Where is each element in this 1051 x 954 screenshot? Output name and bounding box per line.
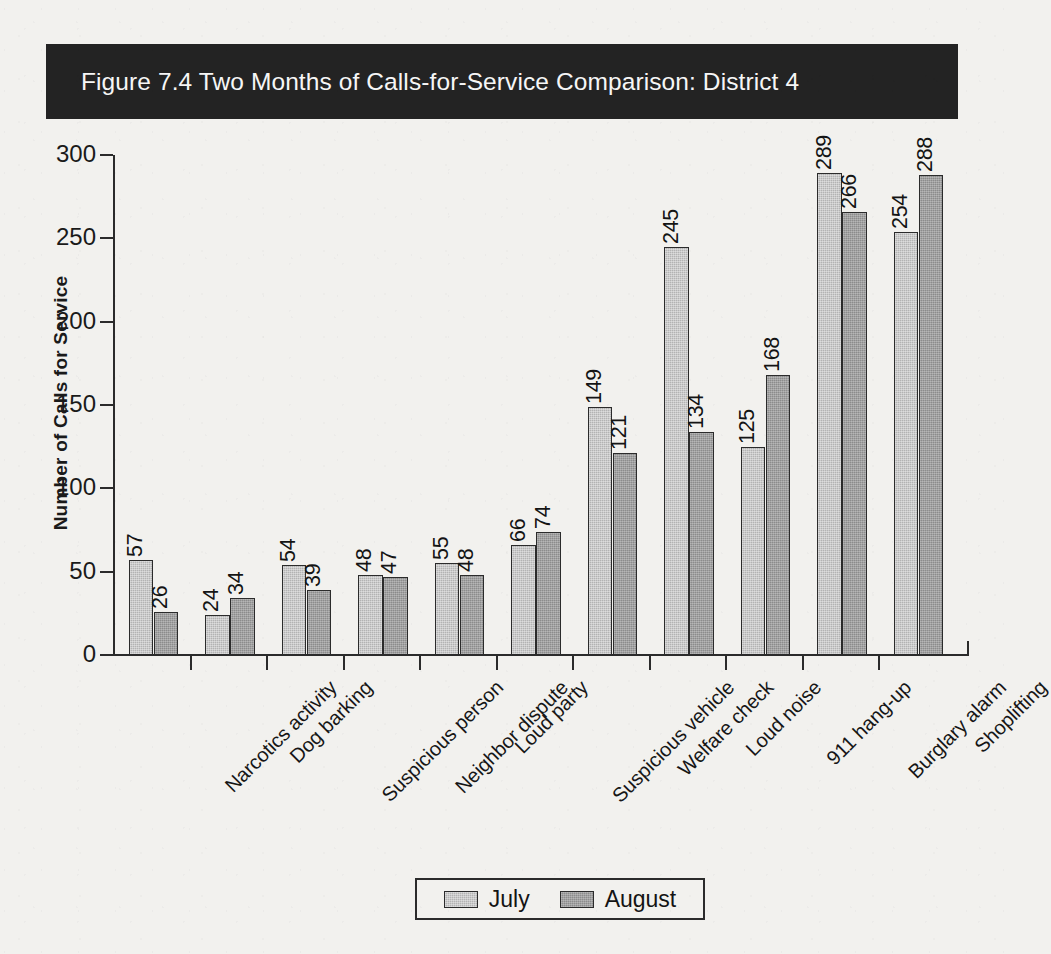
bar-july: 66 xyxy=(511,545,536,655)
bar-value-label: 66 xyxy=(506,519,531,542)
x-axis-end-tick xyxy=(967,641,969,656)
legend-label-july: July xyxy=(489,886,530,913)
y-axis-tick xyxy=(100,571,113,573)
y-axis-tick xyxy=(100,237,113,239)
bar-august: 168 xyxy=(766,375,791,655)
x-axis-tick xyxy=(572,656,574,670)
x-axis-category-label: Neighbor dispute xyxy=(451,676,573,798)
y-axis-tick xyxy=(100,404,113,406)
x-axis-tick xyxy=(802,656,804,670)
plot-area: 5726243454394847554866741491212451341251… xyxy=(113,155,955,655)
bar-value-label: 26 xyxy=(148,585,173,608)
y-axis-tick-label: 200 xyxy=(34,307,96,335)
bar-august: 288 xyxy=(919,175,944,655)
bar-august: 39 xyxy=(307,590,332,655)
bar-august: 34 xyxy=(230,598,255,655)
bar-value-label: 57 xyxy=(123,534,148,557)
bar-value-label: 168 xyxy=(760,337,785,372)
legend-entry: July xyxy=(444,886,530,913)
bar-august: 121 xyxy=(613,453,638,655)
y-axis-tick-label: 50 xyxy=(34,557,96,585)
bar-value-label: 24 xyxy=(199,589,224,612)
figure-title: Figure 7.4 Two Months of Calls-for-Servi… xyxy=(46,68,799,96)
y-axis-tick-label: 150 xyxy=(34,390,96,418)
x-axis-tick xyxy=(343,656,345,670)
bar-value-label: 288 xyxy=(913,137,938,172)
bar-value-label: 121 xyxy=(607,415,632,450)
x-axis-tick xyxy=(878,656,880,670)
bar-value-label: 134 xyxy=(684,394,709,429)
x-axis-tick xyxy=(190,656,192,670)
bar-july: 254 xyxy=(894,232,919,655)
y-axis-tick-label: 0 xyxy=(34,640,96,668)
y-axis-tick xyxy=(100,654,113,656)
x-axis-category-label: 911 hang-up xyxy=(822,676,916,770)
x-axis-tick xyxy=(649,656,651,670)
legend-label-august: August xyxy=(605,886,677,913)
bar-july: 55 xyxy=(435,563,460,655)
bar-july: 289 xyxy=(817,173,842,655)
x-axis-tick xyxy=(266,656,268,670)
figure-title-banner: Figure 7.4 Two Months of Calls-for-Servi… xyxy=(46,44,958,119)
y-axis-tick-label: 250 xyxy=(34,223,96,251)
x-axis-category-label: Suspicious person xyxy=(378,676,509,807)
bar-value-label: 54 xyxy=(276,539,301,562)
bar-value-label: 34 xyxy=(224,572,249,595)
bar-july: 245 xyxy=(664,247,689,655)
legend-swatch-august xyxy=(560,891,594,908)
bar-value-label: 39 xyxy=(301,564,326,587)
legend-entry: August xyxy=(560,886,677,913)
bar-value-label: 266 xyxy=(837,174,862,209)
bar-value-label: 254 xyxy=(888,194,913,229)
y-axis-tick xyxy=(100,154,113,156)
bar-value-label: 55 xyxy=(429,537,454,560)
bar-july: 24 xyxy=(205,615,230,655)
bar-value-label: 47 xyxy=(377,550,402,573)
bar-july: 125 xyxy=(741,447,766,655)
y-axis-tick xyxy=(100,321,113,323)
bar-august: 47 xyxy=(383,577,408,655)
bar-value-label: 149 xyxy=(582,369,607,404)
bar-value-label: 48 xyxy=(454,549,479,572)
x-axis-tick xyxy=(419,656,421,670)
bar-value-label: 289 xyxy=(812,135,837,170)
bar-july: 48 xyxy=(358,575,383,655)
bar-value-label: 245 xyxy=(659,209,684,244)
bar-august: 48 xyxy=(460,575,485,655)
x-axis-tick xyxy=(725,656,727,670)
bar-august: 74 xyxy=(536,532,561,655)
x-axis-tick xyxy=(496,656,498,670)
chart-legend: JulyAugust xyxy=(415,878,705,920)
legend-swatch-july xyxy=(444,891,478,908)
bar-value-label: 125 xyxy=(735,409,760,444)
y-axis-tick-label: 100 xyxy=(34,473,96,501)
bar-value-label: 48 xyxy=(352,549,377,572)
bar-august: 266 xyxy=(842,212,867,655)
y-axis-tick-label: 300 xyxy=(34,140,96,168)
y-axis-tick xyxy=(100,487,113,489)
bar-august: 134 xyxy=(689,432,714,655)
bar-august: 26 xyxy=(154,612,179,655)
bar-value-label: 74 xyxy=(531,505,556,528)
